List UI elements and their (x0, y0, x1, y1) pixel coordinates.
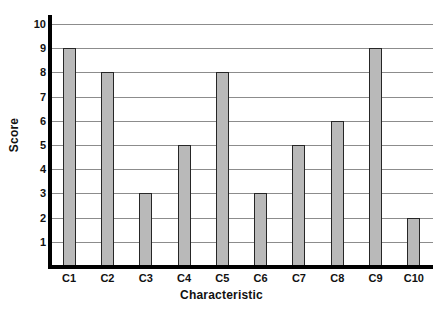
x-axis-tick-label: C10 (394, 272, 434, 284)
bar (139, 193, 152, 266)
y-axis-tick-label: 2 (22, 213, 46, 224)
x-axis-tick-label: C4 (164, 272, 204, 284)
y-axis-tick-label: 9 (22, 43, 46, 54)
bar (292, 145, 305, 266)
x-axis-tick-label: C7 (279, 272, 319, 284)
y-axis-tick-label: 10 (22, 19, 46, 30)
bar (63, 48, 76, 266)
x-axis-tick-label: C2 (87, 272, 127, 284)
y-axis-tick-label: 7 (22, 92, 46, 103)
y-axis-tick-label: 5 (22, 140, 46, 151)
x-axis-tick-label: C1 (49, 272, 89, 284)
x-axis-title: Characteristic (0, 288, 443, 302)
x-axis-tick-label: C3 (126, 272, 166, 284)
bar (216, 72, 229, 266)
bar (101, 72, 114, 266)
bar (369, 48, 382, 266)
x-axis-tick-label: C9 (356, 272, 396, 284)
y-axis-tick-label: 4 (22, 164, 46, 175)
y-axis-line (48, 15, 52, 269)
plot-area (50, 18, 433, 267)
x-axis-tick-label: C8 (317, 272, 357, 284)
x-axis-tick-label: C6 (241, 272, 281, 284)
gridline (50, 24, 433, 25)
y-axis-tick-label: 1 (22, 237, 46, 248)
bar (407, 218, 420, 266)
bar (254, 193, 267, 266)
bar (178, 145, 191, 266)
y-axis-tick-label: 8 (22, 67, 46, 78)
y-axis-tick-labels: 10987654321 (18, 18, 46, 267)
bar-chart: Score 10987654321 Characteristic C1C2C3C… (0, 0, 443, 312)
y-axis-tick-label: 6 (22, 116, 46, 127)
y-axis-tick-label: 3 (22, 188, 46, 199)
bar (331, 121, 344, 266)
x-axis-line (48, 265, 433, 269)
x-axis-tick-label: C5 (202, 272, 242, 284)
